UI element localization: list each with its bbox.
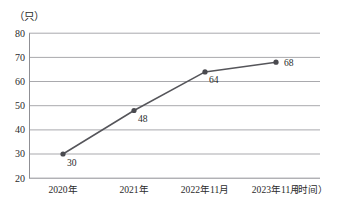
- line-chart: （只） 80 70 60 50 40 30 20: [0, 0, 343, 207]
- data-point-label-2: 64: [209, 74, 219, 85]
- x-category-label-1: 2021年: [119, 184, 148, 195]
- y-tick-label-70: 70: [15, 52, 25, 63]
- x-category-labels: 2020年 2021年 2022年11月 2023年11月 （时间）: [48, 184, 328, 195]
- data-point-2[interactable]: [202, 69, 207, 74]
- y-tick-label-20: 20: [15, 173, 25, 184]
- data-point-labels: 30 48 64 68: [67, 57, 294, 168]
- y-tick-label-30: 30: [15, 148, 25, 159]
- y-tick-label-60: 60: [15, 76, 25, 87]
- y-tick-labels: 80 70 60 50 40 30 20: [15, 28, 25, 184]
- y-tick-label-40: 40: [15, 124, 25, 135]
- y-tick-label-80: 80: [15, 28, 25, 39]
- data-point-label-3: 68: [284, 57, 294, 68]
- data-point-label-0: 30: [67, 157, 77, 168]
- data-point-markers: [60, 60, 278, 157]
- x-category-label-2: 2022年11月: [181, 184, 229, 195]
- x-category-label-0: 2020年: [48, 184, 77, 195]
- chart-canvas: （只） 80 70 60 50 40 30 20: [0, 0, 343, 207]
- x-axis-unit-label: （时间）: [288, 184, 328, 195]
- data-point-label-1: 48: [138, 113, 148, 124]
- y-axis-unit-label: （只）: [14, 11, 43, 22]
- data-point-1[interactable]: [131, 108, 136, 113]
- data-point-3[interactable]: [273, 60, 278, 65]
- y-tick-label-50: 50: [15, 100, 25, 111]
- data-point-0[interactable]: [60, 151, 65, 156]
- data-line-series-0: [63, 62, 276, 154]
